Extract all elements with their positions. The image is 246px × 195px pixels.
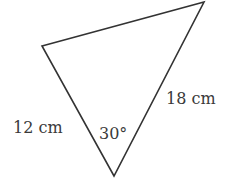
angle-label-30deg: 30° xyxy=(99,124,127,143)
side-label-18cm: 18 cm xyxy=(166,89,216,108)
side-label-12cm: 12 cm xyxy=(13,118,63,137)
triangle-diagram: 12 cm 18 cm 30° xyxy=(0,0,246,195)
